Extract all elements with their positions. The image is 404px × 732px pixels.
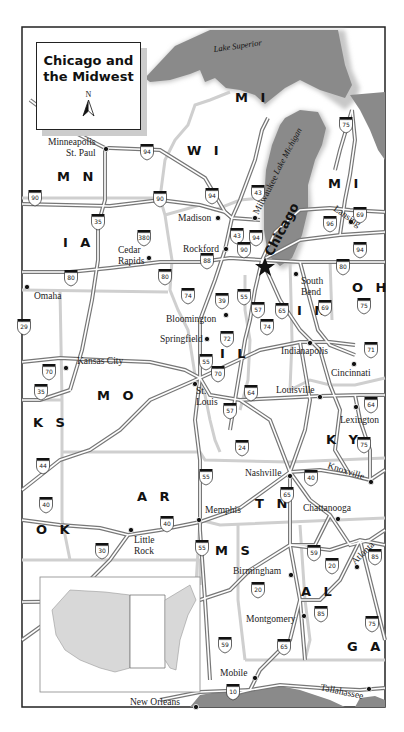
- state-label-ar: A R: [137, 489, 174, 504]
- shield-number: 39: [218, 297, 226, 304]
- shield-top: [37, 458, 50, 461]
- north-arrow-icon: [37, 99, 140, 117]
- city-label: Memphis: [205, 505, 241, 515]
- shield-number: 80: [161, 273, 169, 280]
- interstate-shield-80: 80: [337, 259, 350, 275]
- shield-top: [337, 259, 350, 262]
- shield-top: [206, 188, 219, 191]
- shield-number: 90: [240, 246, 248, 253]
- interstate-shield-71: 71: [365, 342, 378, 358]
- shield-number: 55: [202, 473, 210, 480]
- interstate-shield-94: 94: [250, 230, 263, 246]
- interstate-shield-88: 88: [201, 253, 214, 269]
- interstate-shield-35: 35: [35, 384, 48, 400]
- city-dot: [252, 675, 257, 680]
- interstate-shield-90: 90: [154, 191, 167, 207]
- shield-top: [365, 342, 378, 345]
- interstate-shield-59: 59: [219, 637, 232, 653]
- us-inset-midwest: [130, 595, 165, 668]
- city-dot: [252, 215, 257, 220]
- state-label-mi-upper: M I: [235, 90, 269, 105]
- shield-top: [319, 300, 332, 303]
- shield-number: 29: [20, 323, 28, 330]
- shield-number: 75: [360, 302, 368, 309]
- interstate-shield-96: 96: [324, 216, 337, 232]
- shield-number: 71: [367, 346, 375, 353]
- interstate-shield-40: 40: [305, 470, 318, 486]
- shield-top: [224, 403, 237, 406]
- shield-top: [231, 228, 244, 231]
- interstate-shield-40: 40: [161, 516, 174, 532]
- shield-number: 57: [226, 407, 234, 414]
- state-label-al: A L: [301, 584, 336, 599]
- shield-top: [92, 214, 105, 217]
- shield-top: [261, 319, 274, 322]
- city-label: Birmingham: [233, 566, 282, 576]
- shield-number: 75: [368, 620, 376, 627]
- shield-top: [141, 144, 154, 147]
- city-dot: [204, 336, 209, 341]
- city-dot: [317, 394, 322, 399]
- shield-number: 59: [310, 549, 318, 556]
- shield-number: 90: [156, 195, 164, 202]
- interstate-shield-35: 35: [92, 214, 105, 230]
- shield-top: [340, 117, 353, 120]
- shield-top: [369, 549, 382, 552]
- shield-top: [154, 191, 167, 194]
- shield-top: [201, 253, 214, 256]
- state-label-ia: I A: [63, 235, 94, 250]
- shield-top: [366, 616, 379, 619]
- shield-number: 35: [94, 218, 102, 225]
- interstate-shield-55: 55: [200, 354, 213, 370]
- shield-number: 10: [229, 688, 237, 695]
- shield-top: [252, 185, 265, 188]
- map-title-box: Chicago and the Midwest N: [36, 42, 141, 130]
- city-dot: [24, 284, 29, 289]
- city-label: Omaha: [34, 291, 62, 301]
- interstate-shield-10: 10: [227, 684, 240, 700]
- shield-number: 57: [254, 306, 262, 313]
- shield-top: [305, 470, 318, 473]
- shield-number: 20: [254, 586, 262, 593]
- interstate-shield-90: 90: [238, 242, 251, 258]
- state-label-mo: M O: [97, 388, 138, 403]
- interstate-shield-80: 80: [65, 270, 78, 286]
- shield-top: [216, 293, 229, 296]
- shield-number: 88: [203, 257, 211, 264]
- shield-number: 85: [371, 553, 379, 560]
- interstate-shield-74: 74: [182, 288, 195, 304]
- state-label-oh: O H: [352, 280, 390, 295]
- shield-number: 380: [138, 234, 150, 241]
- shield-top: [281, 487, 294, 490]
- city-dot: [223, 246, 228, 251]
- city-dot: [301, 613, 306, 618]
- interstate-shield-20: 20: [252, 582, 265, 598]
- interstate-shield-20: 20: [326, 558, 339, 574]
- shield-number: 44: [39, 462, 47, 469]
- city-dot: [63, 365, 68, 370]
- shield-top: [278, 639, 291, 642]
- shield-number: 43: [254, 189, 262, 196]
- shield-top: [358, 298, 371, 301]
- interstate-shield-74: 74: [261, 319, 274, 335]
- state-label-ms: M S: [215, 543, 254, 558]
- city-label: Bloomington: [166, 314, 216, 324]
- city-dot: [215, 215, 220, 220]
- shield-number: 55: [240, 293, 248, 300]
- interstate-shield-43: 43: [252, 185, 265, 201]
- shield-top: [221, 331, 234, 334]
- shield-number: 80: [67, 274, 75, 281]
- shield-top: [196, 540, 209, 543]
- us-inset-map: [40, 577, 200, 692]
- state-label-mn: M N: [57, 169, 97, 184]
- shield-number: 30: [98, 547, 106, 554]
- shield-number: 55: [202, 358, 210, 365]
- interstate-shield-72: 72: [221, 331, 234, 347]
- interstate-shield-57: 57: [252, 302, 265, 318]
- city-dot: [335, 516, 340, 521]
- shield-number: 55: [198, 544, 206, 551]
- shield-top: [250, 230, 263, 233]
- shield-top: [238, 289, 251, 292]
- map-title-line2: the Midwest: [37, 69, 140, 85]
- shield-top: [159, 269, 172, 272]
